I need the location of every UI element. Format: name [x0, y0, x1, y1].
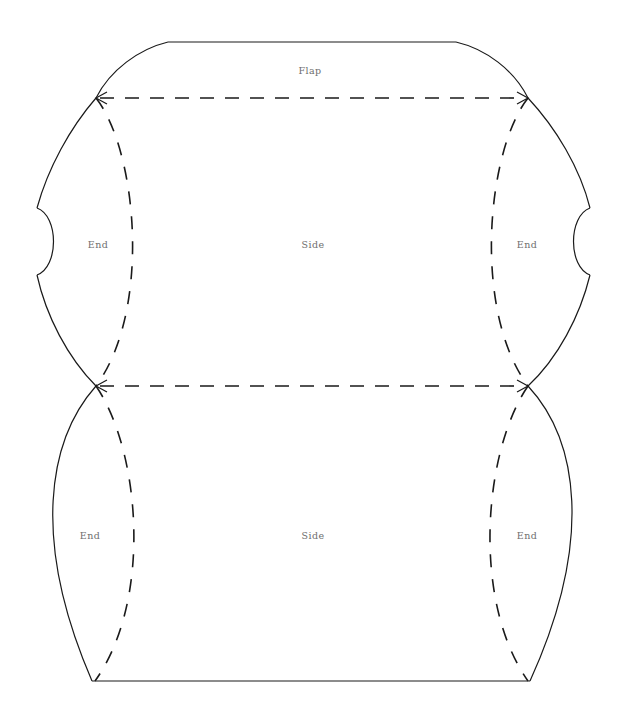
- flap-right-corner-cut-curve: [456, 42, 528, 98]
- upper-left-lower-outer-cut-curve: [37, 275, 96, 386]
- label-side-top: Side: [302, 239, 325, 250]
- middle-fold-right-arrowhead-icon: [517, 380, 528, 392]
- upper-right-lower-outer-cut-curve: [528, 275, 590, 386]
- label-end-top-left: End: [88, 239, 108, 250]
- label-end-bottom-right: End: [517, 530, 537, 541]
- label-end-bottom-left: End: [80, 530, 100, 541]
- pillow-box-template-canvas: Flap End Side End End Side End: [0, 0, 622, 717]
- label-side-bottom: Side: [302, 530, 325, 541]
- lower-left-curved-fold-line: [95, 386, 134, 681]
- die-cut-template-drawing: Flap End Side End End Side End: [0, 0, 622, 717]
- upper-left-outer-cut-curve: [37, 98, 96, 208]
- label-flap: Flap: [299, 65, 322, 76]
- left-notch-cut-curve: [37, 208, 54, 275]
- upper-right-outer-cut-curve: [528, 98, 590, 208]
- flap-left-corner-cut-curve: [96, 42, 168, 98]
- right-notch-cut-curve: [574, 208, 591, 275]
- label-end-top-right: End: [517, 239, 537, 250]
